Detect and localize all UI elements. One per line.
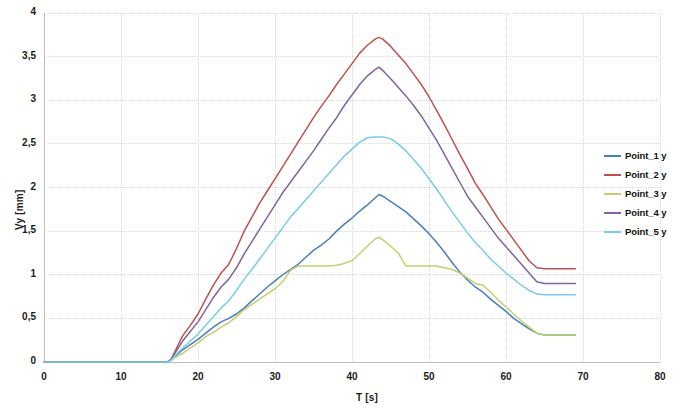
y-tick-label: 4	[6, 6, 36, 17]
chart-container: Vy [mm] T [s] 00,511,522,533,54 01020304…	[0, 0, 686, 408]
legend-label: Point_2 y	[625, 169, 666, 180]
y-tick-label: 2	[6, 181, 36, 192]
legend-item-4[interactable]: Point_4 y	[604, 203, 684, 222]
legend-label: Point_5 y	[625, 226, 666, 237]
legend-item-3[interactable]: Point_3 y	[604, 184, 684, 203]
y-tick-label: 3	[6, 93, 36, 104]
x-tick-label: 50	[414, 371, 444, 382]
x-tick-label: 60	[491, 371, 521, 382]
y-tick-label: 1	[6, 268, 36, 279]
legend-label: Point_1 y	[625, 150, 666, 161]
y-tick-label: 0	[6, 355, 36, 366]
y-tick-label: 2,5	[6, 137, 36, 148]
x-tick-label: 30	[260, 371, 290, 382]
legend-swatch-icon	[604, 155, 621, 157]
legend-label: Point_3 y	[625, 188, 666, 199]
y-tick-label: 3,5	[6, 50, 36, 61]
plot-area	[0, 0, 686, 408]
legend-swatch-icon	[604, 231, 621, 233]
x-tick-label: 70	[568, 371, 598, 382]
y-tick-label: 0,5	[6, 311, 36, 322]
legend-swatch-icon	[604, 212, 621, 214]
x-tick-label: 40	[337, 371, 367, 382]
y-tick-label: 1,5	[6, 224, 36, 235]
x-tick-label: 80	[645, 371, 675, 382]
legend-item-2[interactable]: Point_2 y	[604, 165, 684, 184]
x-tick-label: 0	[29, 371, 59, 382]
legend-label: Point_4 y	[625, 207, 666, 218]
x-axis-title: T [s]	[356, 392, 378, 403]
x-tick-label: 10	[106, 371, 136, 382]
x-tick-label: 20	[183, 371, 213, 382]
legend-swatch-icon	[604, 174, 621, 176]
chart-legend: Point_1 yPoint_2 yPoint_3 yPoint_4 yPoin…	[604, 146, 684, 241]
legend-swatch-icon	[604, 193, 621, 195]
legend-item-1[interactable]: Point_1 y	[604, 146, 684, 165]
legend-item-5[interactable]: Point_5 y	[604, 222, 684, 241]
